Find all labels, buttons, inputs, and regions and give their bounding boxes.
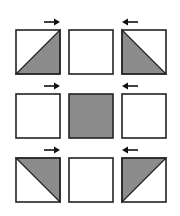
cell-r3-c2 (69, 158, 113, 202)
pattern-grid-diagram (0, 0, 180, 216)
arrow-head (122, 83, 128, 90)
arrow-head (54, 147, 60, 154)
cell-background (122, 94, 166, 138)
cell-r2-c1 (16, 94, 60, 138)
cell-r3-c3 (122, 158, 166, 202)
arrow-head (54, 83, 60, 90)
cell-background (69, 158, 113, 202)
cell-r1-c1 (16, 30, 60, 74)
shaded-square (69, 94, 113, 138)
cell-r3-c1 (16, 158, 60, 202)
arrow-left-icon (122, 83, 138, 90)
cell-r2-c2 (69, 94, 113, 138)
cell-r2-c3 (122, 94, 166, 138)
arrow-left-icon (122, 147, 138, 154)
cell-background (69, 30, 113, 74)
arrow-head (122, 147, 128, 154)
arrow-left-icon (122, 19, 138, 26)
pattern-grid-svg (0, 0, 180, 216)
cell-r1-c3 (122, 30, 166, 74)
cell-background (16, 94, 60, 138)
arrow-right-icon (44, 147, 60, 154)
arrow-right-icon (44, 83, 60, 90)
cell-r1-c2 (69, 30, 113, 74)
arrow-head (54, 19, 60, 26)
arrow-right-icon (44, 19, 60, 26)
arrow-head (122, 19, 128, 26)
